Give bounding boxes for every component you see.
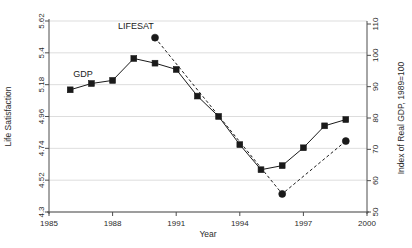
y-axis-right-tick-label: 110 [371, 17, 380, 30]
series-annotation-gdp: GDP [73, 69, 93, 79]
y-axis-right-tick-label: 90 [371, 82, 380, 91]
y-axis-right-tick-label: 50 [371, 207, 380, 216]
y-axis-left-tick-label: 4.96 [37, 108, 46, 124]
series-line-lifesat [155, 38, 346, 194]
chart-svg: 4.34.524.744.965.185.45.6250607080901001… [0, 0, 412, 248]
y-axis-left-tick-label: 4.3 [37, 206, 46, 218]
data-point-gdp [173, 67, 179, 73]
data-point-lifesat [342, 138, 349, 145]
y-axis-right-tick-label: 100 [371, 48, 380, 62]
data-point-gdp [343, 117, 349, 123]
data-point-gdp [195, 93, 201, 99]
x-axis-tick-label: 1994 [231, 219, 249, 228]
data-point-gdp [110, 78, 116, 84]
y-axis-right-tick-label: 80 [371, 113, 380, 122]
series-line-gdp [70, 58, 346, 169]
y-axis-left-tick-label: 4.74 [37, 140, 46, 156]
data-point-gdp [89, 81, 95, 87]
y-axis-left-title: Life Satisfaction [3, 86, 13, 146]
data-point-gdp [67, 87, 73, 93]
data-point-gdp [322, 123, 328, 129]
y-axis-left-tick-label: 4.52 [37, 172, 46, 188]
y-axis-right-tick-label: 60 [371, 176, 380, 185]
y-axis-left-tick-label: 5.62 [37, 13, 46, 29]
data-point-gdp [301, 145, 307, 151]
data-point-lifesat [279, 190, 286, 197]
data-point-gdp [131, 56, 137, 62]
y-axis-right-tick-label: 70 [371, 144, 380, 153]
data-point-gdp [152, 60, 158, 66]
x-axis-tick-label: 2000 [358, 219, 376, 228]
x-axis-tick-label: 1985 [40, 219, 58, 228]
chart-container: 4.34.524.744.965.185.45.6250607080901001… [0, 0, 412, 248]
y-axis-left-tick-label: 5.4 [37, 47, 46, 59]
y-axis-right-title: Index of Real GDP, 1989=100 [396, 61, 406, 174]
x-axis-tick-label: 1991 [167, 219, 185, 228]
data-point-gdp [279, 163, 285, 169]
x-axis-tick-label: 1997 [295, 219, 313, 228]
y-axis-left-tick-label: 5.18 [37, 76, 46, 92]
series-annotation-lifesat: LIFESAT [118, 21, 154, 31]
x-axis-title: Year [199, 229, 216, 239]
data-point-lifesat [152, 34, 159, 41]
x-axis-tick-label: 1988 [104, 219, 122, 228]
